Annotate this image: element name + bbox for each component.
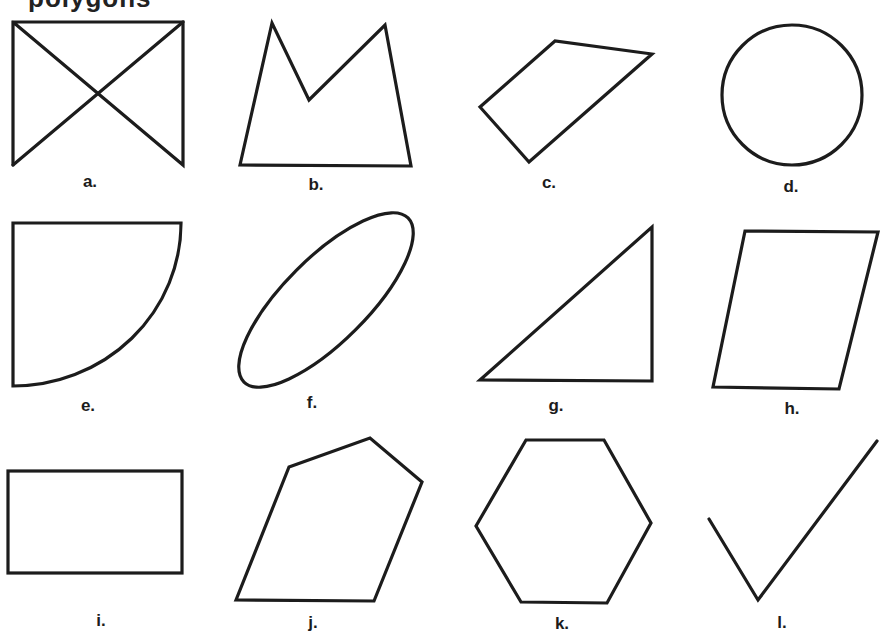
figure-f: f. — [214, 188, 437, 412]
figure-a: a. — [13, 22, 183, 191]
figure-e: e. — [13, 223, 181, 415]
figure-h: h. — [713, 231, 878, 418]
label-h: h. — [784, 399, 799, 418]
figure-l: l. — [709, 441, 877, 632]
figure-k: k. — [476, 440, 651, 633]
shape-h-parallelogram — [713, 231, 878, 389]
shape-c-quadrilateral — [480, 41, 652, 162]
shape-g-right-triangle — [480, 227, 652, 381]
label-e: e. — [81, 396, 95, 415]
shape-d-circle — [722, 25, 862, 165]
shape-f-ellipse — [214, 188, 437, 411]
figure-b: b. — [240, 23, 411, 194]
label-k: k. — [555, 614, 569, 633]
shapes-diagram: a. b. c. d. e. f. g. h. i. j. — [0, 0, 892, 638]
label-b: b. — [308, 175, 323, 194]
figure-d: d. — [722, 25, 862, 196]
shape-i-rectangle — [8, 471, 182, 573]
figure-j: j. — [236, 438, 422, 632]
figure-i: i. — [8, 471, 182, 630]
shape-b-notched-polygon — [240, 23, 411, 166]
label-d: d. — [783, 177, 798, 196]
label-l: l. — [777, 613, 786, 632]
label-j: j. — [307, 613, 317, 632]
shape-l-checkmark — [709, 441, 877, 600]
shape-e-quarter-circle — [13, 223, 181, 386]
label-a: a. — [83, 172, 97, 191]
label-f: f. — [307, 393, 317, 412]
shape-k-hexagon — [476, 440, 651, 603]
figure-g: g. — [480, 227, 652, 415]
shape-j-pentagon — [236, 438, 422, 601]
label-i: i. — [96, 611, 105, 630]
label-c: c. — [542, 173, 556, 192]
figure-c: c. — [480, 41, 652, 192]
label-g: g. — [548, 396, 563, 415]
